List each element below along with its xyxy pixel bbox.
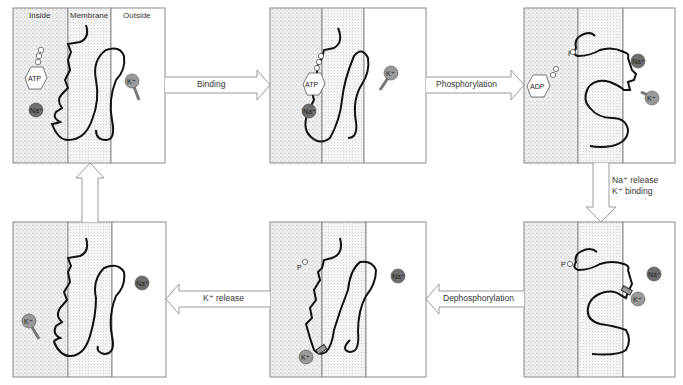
svg-text:Na⁺: Na⁺ xyxy=(632,58,645,65)
panel-6-k-released: Na⁺ K⁺ xyxy=(13,222,166,377)
sodium-ion-released: Na⁺ xyxy=(647,267,661,281)
svg-text:Na⁺: Na⁺ xyxy=(30,107,43,114)
sodium-ion-bound: Na⁺ xyxy=(302,104,316,118)
sodium-ion: Na⁺ xyxy=(29,103,43,117)
arrow-return xyxy=(76,163,104,222)
panel-2-bound: ATP Na⁺ K⁺ xyxy=(270,8,426,163)
svg-text:Na⁺: Na⁺ xyxy=(392,273,405,280)
header-outside: Outside xyxy=(123,11,151,20)
panel-4-k-bound: P Na⁺ K⁺ xyxy=(524,222,675,377)
svg-text:ATP: ATP xyxy=(28,75,41,82)
sodium-ion: Na⁺ xyxy=(391,269,405,283)
svg-text:P: P xyxy=(561,261,566,268)
svg-text:K⁺: K⁺ xyxy=(127,78,136,85)
label-k-release: K⁺ release xyxy=(203,293,244,303)
svg-text:Na⁺: Na⁺ xyxy=(303,108,316,115)
header-membrane: Membrane xyxy=(70,11,109,20)
sodium-ion-outside: Na⁺ xyxy=(135,276,149,290)
svg-text:Na⁺: Na⁺ xyxy=(648,271,661,278)
svg-text:K⁺: K⁺ xyxy=(24,318,33,325)
svg-text:Na⁺: Na⁺ xyxy=(136,280,149,287)
label-k-binding: K⁺ binding xyxy=(612,186,652,196)
label-phosphorylation: Phosphorylation xyxy=(436,79,497,89)
sodium-potassium-pump-diagram: Inside Membrane Outside ATP Na⁺ K⁺ xyxy=(0,0,683,385)
svg-text:K⁺: K⁺ xyxy=(633,296,642,303)
svg-text:K⁺: K⁺ xyxy=(301,354,310,361)
svg-text:ADP: ADP xyxy=(530,83,545,90)
svg-text:K⁺: K⁺ xyxy=(386,70,395,77)
label-dephosphorylation: Dephosphorylation xyxy=(443,293,514,303)
label-na-release: Na⁺ release xyxy=(612,175,658,185)
panel-1-resting: Inside Membrane Outside ATP Na⁺ K⁺ xyxy=(13,8,165,163)
label-binding: Binding xyxy=(197,79,225,89)
svg-text:P: P xyxy=(297,264,302,271)
svg-text:K⁺: K⁺ xyxy=(647,95,656,102)
sodium-ion-releasing: Na⁺ xyxy=(631,54,645,68)
panel-3-phosphorylated: P ADP Na⁺ K⁺ xyxy=(524,8,675,163)
svg-text:ATP: ATP xyxy=(305,81,318,88)
header-inside: Inside xyxy=(29,11,51,20)
panel-5-dephosphorylated: P Na⁺ K⁺ xyxy=(270,222,426,377)
